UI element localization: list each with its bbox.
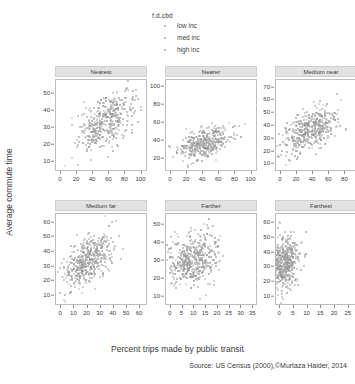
- legend-marker-icon: [160, 47, 170, 53]
- x-tick-mark: [193, 305, 194, 308]
- data-point: [100, 261, 102, 263]
- y-axis-farther: 1020304050: [139, 213, 164, 305]
- data-point: [278, 156, 280, 158]
- data-point: [336, 93, 338, 95]
- data-point: [115, 137, 117, 139]
- data-point: [206, 233, 208, 235]
- data-point: [289, 238, 291, 240]
- data-point: [104, 215, 106, 217]
- data-point: [298, 260, 300, 262]
- data-point: [77, 115, 79, 117]
- data-point: [126, 111, 128, 113]
- data-point: [211, 235, 213, 237]
- data-point: [180, 148, 182, 150]
- data-point: [70, 291, 72, 293]
- data-point: [99, 102, 101, 104]
- data-point: [278, 250, 280, 252]
- y-tick-mark: [161, 296, 164, 297]
- data-point: [111, 262, 113, 264]
- data-point: [109, 123, 111, 125]
- data-point: [187, 166, 189, 168]
- data-point: [327, 131, 329, 133]
- data-point: [215, 262, 217, 264]
- data-point: [116, 101, 118, 103]
- data-point: [212, 149, 214, 151]
- y-tick-mark: [271, 163, 274, 164]
- data-point: [103, 105, 105, 107]
- data-point: [211, 153, 213, 155]
- data-point: [97, 255, 99, 257]
- data-point: [135, 95, 137, 97]
- x-tick-label: 0: [168, 176, 171, 182]
- x-tick-mark: [182, 305, 183, 308]
- x-tick-mark: [60, 305, 61, 308]
- data-point: [210, 271, 212, 273]
- y-tick-label: 30: [263, 135, 270, 141]
- data-point: [102, 102, 104, 104]
- x-tick-label: 20: [214, 310, 221, 316]
- data-point: [77, 267, 79, 269]
- data-point: [345, 129, 347, 131]
- data-point: [280, 154, 282, 156]
- data-point: [297, 258, 299, 260]
- data-point: [291, 272, 293, 274]
- y-tick-label: 40: [153, 137, 160, 143]
- x-tick-label: 60: [215, 176, 222, 182]
- data-point: [185, 283, 187, 285]
- data-point: [71, 157, 73, 159]
- data-point: [206, 224, 208, 226]
- data-point: [76, 146, 78, 148]
- data-point: [330, 133, 332, 135]
- data-point: [103, 244, 105, 246]
- data-point: [122, 248, 124, 250]
- data-point: [295, 150, 297, 152]
- data-point: [330, 129, 332, 131]
- data-point: [292, 149, 294, 151]
- data-point: [193, 133, 195, 135]
- data-point: [73, 282, 75, 284]
- data-point: [205, 152, 207, 154]
- data-point: [134, 99, 136, 101]
- data-point: [131, 98, 133, 100]
- data-point: [292, 246, 294, 248]
- x-tick-mark: [344, 171, 345, 174]
- data-point: [93, 254, 95, 256]
- data-point: [286, 151, 288, 153]
- x-tick-mark: [186, 171, 187, 174]
- x-axis-label: Percent trips made by public transit: [0, 344, 355, 354]
- data-point: [286, 292, 288, 294]
- data-point: [299, 129, 301, 131]
- data-point: [200, 236, 202, 238]
- data-point: [93, 117, 95, 119]
- data-point: [208, 143, 210, 145]
- data-point: [100, 122, 102, 124]
- data-point: [85, 144, 87, 146]
- y-tick-label: 60: [43, 219, 50, 225]
- data-point: [100, 99, 102, 101]
- data-point: [284, 231, 286, 233]
- y-tick-mark: [271, 125, 274, 126]
- data-point: [123, 104, 125, 106]
- data-point: [71, 279, 73, 281]
- data-point: [333, 116, 335, 118]
- data-point: [334, 119, 336, 121]
- data-point: [197, 286, 199, 288]
- y-tick-label: 20: [43, 141, 50, 147]
- data-point: [97, 258, 99, 260]
- data-point: [277, 289, 279, 291]
- data-point: [194, 229, 196, 231]
- data-point: [182, 247, 184, 249]
- data-point: [165, 270, 167, 272]
- data-point: [307, 142, 309, 144]
- legend-item-med-inc: med inc: [152, 32, 262, 43]
- data-point: [190, 287, 192, 289]
- data-point: [182, 160, 184, 162]
- data-point: [170, 236, 172, 238]
- data-point: [219, 134, 221, 136]
- data-point: [63, 258, 65, 260]
- data-point: [199, 298, 201, 300]
- data-point: [77, 249, 79, 251]
- data-point: [125, 101, 127, 103]
- x-tick-mark: [279, 305, 280, 308]
- data-point: [296, 268, 298, 270]
